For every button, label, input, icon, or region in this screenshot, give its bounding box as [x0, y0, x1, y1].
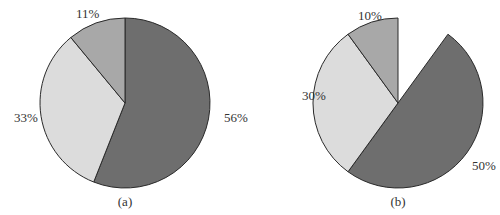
slice-label-50: 50%	[472, 158, 496, 173]
pie-chart-a: 56%33%11%	[14, 6, 248, 188]
slice-label-33: 33%	[14, 110, 38, 125]
slice-label-56: 56%	[224, 110, 248, 125]
caption-b: (b)	[390, 194, 405, 209]
slice-label-11: 11%	[76, 6, 100, 21]
slice-label-10: 10%	[358, 8, 382, 23]
pie-charts-figure: 56%33%11% 50%30%10% (a) (b)	[0, 0, 500, 215]
caption-a: (a)	[118, 194, 132, 209]
slice-label-30: 30%	[302, 88, 326, 103]
pie-chart-b: 50%30%10%	[302, 8, 496, 188]
